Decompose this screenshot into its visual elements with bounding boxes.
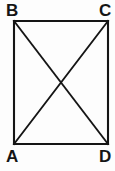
- vertex-label-d: D: [99, 148, 111, 165]
- vertex-label-a: A: [6, 148, 18, 165]
- geometry-figure: B C D A: [0, 0, 115, 171]
- vertex-label-c: C: [99, 2, 111, 19]
- vertex-label-b: B: [6, 2, 18, 19]
- rectangle-diagram-svg: [0, 0, 115, 171]
